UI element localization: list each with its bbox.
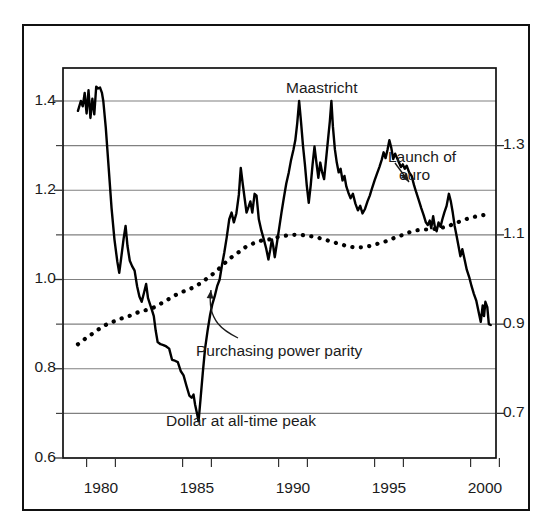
x-axis-label-1990: 1990 xyxy=(263,479,323,497)
x-axis-label-1980: 1980 xyxy=(71,479,131,497)
y-axis-right-label-0-7: 0.7 xyxy=(503,403,537,421)
x-axis-label-1995: 1995 xyxy=(359,479,419,497)
y-axis-left-label-1-2: 1.2 xyxy=(22,180,56,198)
y-axis-left-label-1-4: 1.4 xyxy=(22,91,56,109)
series-exchange-rate xyxy=(78,87,491,422)
purchasing-power-parity-arrowhead xyxy=(207,290,214,299)
annotation-launch-of-euro-line1: Launch of xyxy=(388,148,456,165)
annotation-launch-of-euro-line2: euro xyxy=(399,166,430,184)
y-axis-right-label-0-9: 0.9 xyxy=(503,314,537,332)
y-axis-right-label-1-3: 1.3 xyxy=(503,135,537,153)
y-axis-left-label-1-0: 1.0 xyxy=(22,269,56,287)
y-axis-right-label-1-1: 1.1 xyxy=(503,224,537,242)
x-axis-label-2000: 2000 xyxy=(455,479,515,497)
plot-frame xyxy=(63,68,496,458)
y-axis-left-label-0-6: 0.6 xyxy=(22,448,56,466)
annotation-launch-of-euro: Launch of euro xyxy=(388,148,474,184)
chart-figure: 1.4 1.2 1.0 0.8 0.6 1.3 1.1 0.9 0.7 1980… xyxy=(0,0,552,529)
y-axis-left-label-0-8: 0.8 xyxy=(22,358,56,376)
x-axis-label-1985: 1985 xyxy=(167,479,227,497)
annotation-dollar-at-all-time-peak: Dollar at all-time peak xyxy=(166,412,316,430)
chart-canvas xyxy=(0,0,552,529)
annotation-maastricht: Maastricht xyxy=(286,79,358,97)
annotation-purchasing-power-parity: Purchasing power parity xyxy=(196,342,362,360)
